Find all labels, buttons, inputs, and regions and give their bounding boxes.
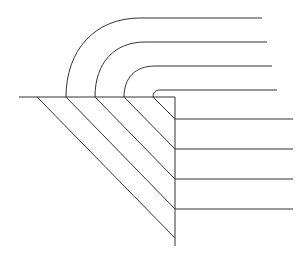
layered-corner-diagram [0, 0, 307, 261]
diagonal-2 [66, 97, 175, 209]
diagram-canvas [0, 0, 307, 261]
diagonal-4 [124, 97, 175, 149]
diagonal-1 [37, 97, 175, 238]
upper-arc-3 [124, 66, 272, 97]
diagonal-3 [95, 97, 175, 179]
diagonal-5 [153, 97, 175, 119]
upper-arc-2 [95, 42, 267, 97]
upper-arc-4 [153, 90, 277, 97]
